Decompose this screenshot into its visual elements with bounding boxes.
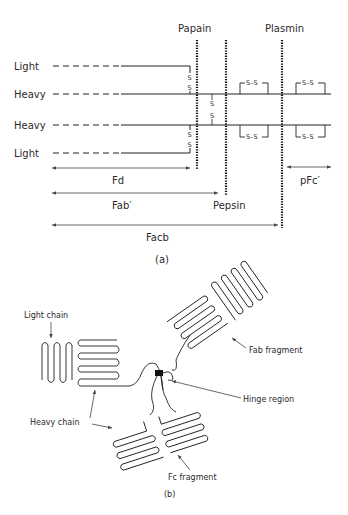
light-chain-label-bottom: Light (14, 148, 39, 159)
light-chain-top (121, 66, 190, 94)
pepsin-label: Pepsin (213, 200, 246, 211)
heavy-chain-pointer-upper (90, 390, 95, 418)
intrachain-loop (296, 125, 301, 137)
heavy-chain-label-bottom: Heavy (14, 120, 46, 131)
plasmin-label: Plasmin (265, 23, 304, 34)
fd-label: Fd (112, 175, 124, 186)
pfc-prime-label: pFc′ (300, 175, 321, 186)
heavy-chain-folds (78, 340, 163, 390)
heavy-chain-label: Heavy chain (30, 418, 80, 427)
figure-b: Light chain Fab fragment Hinge region He… (24, 260, 302, 499)
hinge-loop (163, 372, 173, 381)
intrachain-loop (262, 125, 268, 137)
s-letter: S (210, 100, 214, 108)
fc-fragment-folds (109, 404, 209, 470)
fc-fragment-label: Fc fragment (168, 473, 217, 482)
fc-fragment-pointer (178, 455, 190, 470)
disulfide-label: S–S (246, 79, 258, 87)
intrachain-loop (296, 83, 301, 94)
papain-label: Papain (178, 23, 211, 34)
s-letter: S (210, 112, 214, 120)
hinge-strand-left (150, 376, 157, 415)
heavy-chain-label-top: Heavy (14, 89, 46, 100)
hinge-region-pointer (172, 381, 241, 398)
disulfide-label: S–S (302, 133, 314, 141)
hinge-region-label: Hinge region (243, 395, 294, 404)
intrachain-loop (318, 83, 325, 94)
fab-fragment-label: Fab fragment (249, 346, 302, 355)
intrachain-loop (262, 83, 268, 94)
fab-prime-label: Fab′ (112, 200, 132, 211)
figure-a-caption: (a) (155, 254, 169, 265)
light-chain-bottom (121, 125, 190, 153)
s-letter: S (188, 84, 192, 92)
fab-fragment-folds (164, 260, 270, 353)
facb-label: Facb (146, 232, 169, 243)
heavy-chain-pointer-lower (92, 424, 112, 428)
figure-b-caption: (b) (164, 490, 175, 499)
light-chain-label-top: Light (14, 61, 39, 72)
s-letter: S (188, 131, 192, 139)
light-chain-folds (42, 343, 72, 383)
s-letter: S (188, 141, 192, 149)
intrachain-loop (318, 125, 325, 137)
s-letter: S (188, 74, 192, 82)
fab-fragment-pointer (232, 338, 246, 348)
intrachain-loop (240, 83, 245, 94)
hinge-block (155, 370, 163, 376)
fab-to-hinge-strand (172, 335, 190, 370)
antibody-fragment-diagram: Papain Plasmin Light Heavy Heavy Light S… (0, 0, 348, 515)
disulfide-label: S–S (302, 79, 314, 87)
light-chain-label: Light chain (24, 311, 68, 320)
disulfide-label: S–S (246, 133, 258, 141)
figure-a: Papain Plasmin Light Heavy Heavy Light S… (14, 23, 331, 265)
intrachain-loop (240, 125, 245, 137)
